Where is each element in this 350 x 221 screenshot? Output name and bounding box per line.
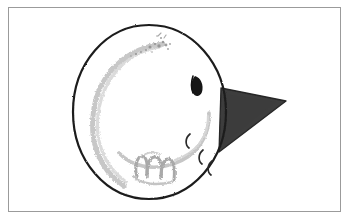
beak-triangle — [219, 88, 286, 152]
comma-mark-middle — [199, 150, 203, 164]
cheek-curve — [119, 113, 209, 167]
image-canvas: Hand-drawn sketch of a round face with a… — [0, 0, 350, 221]
head-circle — [73, 25, 226, 199]
eye — [191, 76, 202, 96]
comma-mark-upper — [186, 134, 190, 148]
sketch-artwork — [0, 0, 350, 221]
inner-crescent-arc — [92, 44, 163, 186]
